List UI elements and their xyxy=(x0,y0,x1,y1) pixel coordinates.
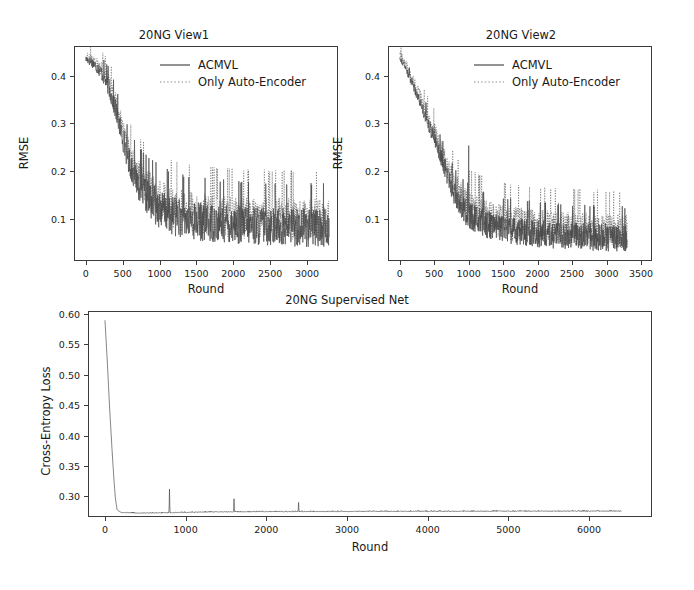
y-tick-label: 0.30 xyxy=(40,491,80,502)
dotted-line-icon xyxy=(160,77,190,87)
y-tick-label: 0.3 xyxy=(340,118,380,129)
panel-view1: 20NG View1 0.10.20.30.405001000150020002… xyxy=(0,0,348,290)
y-tick-label: 0.2 xyxy=(340,166,380,177)
x-tick-label: 6000 xyxy=(577,524,601,535)
y-tick-label: 0.2 xyxy=(26,166,66,177)
x-tick-mark xyxy=(266,517,267,521)
x-tick-mark xyxy=(186,517,187,521)
x-tick-mark xyxy=(508,517,509,521)
panel-view1-ylabel: RMSE xyxy=(17,113,31,193)
x-tick-label: 0 xyxy=(102,524,108,535)
x-tick-label: 2500 xyxy=(560,268,584,279)
y-tick-label: 0.1 xyxy=(26,213,66,224)
x-tick-label: 3000 xyxy=(594,268,618,279)
x-tick-mark xyxy=(160,261,161,265)
panel-supervised-ylabel: Cross-Entropy Loss xyxy=(39,351,53,491)
y-tick-mark xyxy=(384,76,388,77)
series-line xyxy=(105,320,621,513)
x-tick-label: 1000 xyxy=(147,268,171,279)
x-tick-label: 1000 xyxy=(457,268,481,279)
x-tick-mark xyxy=(196,261,197,265)
x-tick-label: 5000 xyxy=(496,524,520,535)
y-tick-mark xyxy=(84,405,88,406)
legend-item-acmvl: ACMVL xyxy=(474,56,620,73)
panel-view2-legend: ACMVL Only Auto-Encoder xyxy=(474,56,620,90)
x-tick-mark xyxy=(400,261,401,265)
x-tick-label: 0 xyxy=(83,268,89,279)
legend-label-autoencoder: Only Auto-Encoder xyxy=(198,75,306,89)
panel-view1-legend: ACMVL Only Auto-Encoder xyxy=(160,56,306,90)
panel-view2: 20NG View2 0.10.20.30.405001000150020002… xyxy=(348,0,694,290)
legend-item-acmvl: ACMVL xyxy=(160,56,306,73)
legend-label-acmvl: ACMVL xyxy=(198,58,238,72)
legend-label-autoencoder: Only Auto-Encoder xyxy=(512,75,620,89)
x-tick-mark xyxy=(428,517,429,521)
legend-item-autoencoder: Only Auto-Encoder xyxy=(474,73,620,90)
y-tick-label: 0.4 xyxy=(340,70,380,81)
y-tick-mark xyxy=(384,123,388,124)
x-tick-label: 2000 xyxy=(221,268,245,279)
x-tick-mark xyxy=(347,517,348,521)
x-tick-label: 3500 xyxy=(629,268,653,279)
x-tick-label: 2000 xyxy=(525,268,549,279)
x-tick-mark xyxy=(270,261,271,265)
y-tick-mark xyxy=(84,466,88,467)
x-tick-mark xyxy=(469,261,470,265)
x-tick-mark xyxy=(307,261,308,265)
panel-view1-lines xyxy=(0,0,348,290)
y-tick-mark xyxy=(84,436,88,437)
y-tick-mark xyxy=(384,219,388,220)
y-tick-mark xyxy=(84,496,88,497)
panel-view2-lines xyxy=(348,0,694,290)
x-tick-label: 1500 xyxy=(184,268,208,279)
panel-supervised-xlabel: Round xyxy=(88,540,652,554)
x-tick-mark xyxy=(538,261,539,265)
x-tick-label: 2500 xyxy=(258,268,282,279)
dotted-line-icon xyxy=(474,77,504,87)
x-tick-mark xyxy=(233,261,234,265)
y-tick-label: 0.1 xyxy=(340,213,380,224)
x-tick-label: 0 xyxy=(397,268,403,279)
y-tick-mark xyxy=(70,219,74,220)
y-tick-mark xyxy=(384,171,388,172)
x-tick-label: 3000 xyxy=(335,524,359,535)
y-tick-mark xyxy=(84,375,88,376)
x-tick-mark xyxy=(86,261,87,265)
x-tick-mark xyxy=(105,517,106,521)
legend-item-autoencoder: Only Auto-Encoder xyxy=(160,73,306,90)
y-tick-label: 0.55 xyxy=(40,339,80,350)
y-tick-mark xyxy=(70,171,74,172)
panel-supervised: 20NG Supervised Net 0.300.350.400.450.50… xyxy=(0,290,694,590)
y-tick-label: 0.3 xyxy=(26,118,66,129)
x-tick-label: 3000 xyxy=(295,268,319,279)
y-tick-mark xyxy=(84,314,88,315)
figure-canvas: 20NG View1 0.10.20.30.405001000150020002… xyxy=(0,0,694,590)
y-tick-mark xyxy=(70,123,74,124)
panel-view2-ylabel: RMSE xyxy=(331,113,345,193)
x-tick-label: 4000 xyxy=(416,524,440,535)
y-tick-mark xyxy=(84,344,88,345)
legend-label-acmvl: ACMVL xyxy=(512,58,552,72)
x-tick-mark xyxy=(641,261,642,265)
x-tick-label: 500 xyxy=(425,268,443,279)
solid-line-icon xyxy=(160,60,190,70)
x-tick-mark xyxy=(589,517,590,521)
x-tick-label: 500 xyxy=(114,268,132,279)
x-tick-mark xyxy=(123,261,124,265)
x-tick-mark xyxy=(572,261,573,265)
x-tick-label: 1000 xyxy=(174,524,198,535)
x-tick-mark xyxy=(434,261,435,265)
y-tick-mark xyxy=(70,76,74,77)
x-tick-mark xyxy=(607,261,608,265)
y-tick-label: 0.60 xyxy=(40,309,80,320)
solid-line-icon xyxy=(474,60,504,70)
y-tick-label: 0.4 xyxy=(26,70,66,81)
x-tick-label: 2000 xyxy=(254,524,278,535)
x-tick-mark xyxy=(503,261,504,265)
x-tick-label: 1500 xyxy=(491,268,515,279)
